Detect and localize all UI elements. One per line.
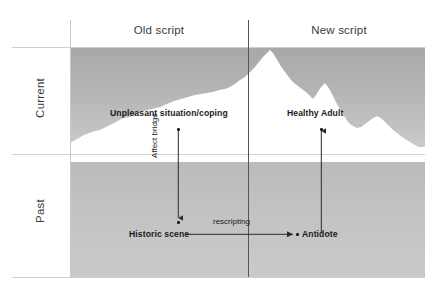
diagram-canvas: Old script New script Current Past Unple… xyxy=(0,0,444,287)
edge-label-rescripting: rescripting xyxy=(213,217,250,226)
node-label-healthy-adult: Healthy Adult xyxy=(287,108,343,118)
node-dot-healthy-adult xyxy=(320,128,323,131)
node-dot-unpleasant xyxy=(177,128,180,131)
node-label-unpleasant-situation: Unpleasant situation/coping xyxy=(110,108,228,118)
node-dot-historic-scene xyxy=(177,221,180,224)
node-label-historic-scene: Historic scene xyxy=(129,229,189,239)
connector-arrows xyxy=(0,0,444,287)
node-label-antidote: Antidote xyxy=(302,229,338,239)
edge-label-affect-bridge: Affect bridge xyxy=(150,113,159,158)
node-dot-antidote xyxy=(296,233,299,236)
